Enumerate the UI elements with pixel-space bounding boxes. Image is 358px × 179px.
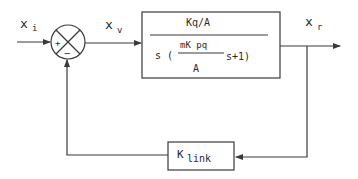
output-signal-main: x (305, 14, 313, 29)
input-signal-sub: i (32, 23, 37, 33)
forward-block-box (142, 12, 280, 78)
feedback-gain-main: K (177, 148, 184, 161)
input-signal-main: x (20, 16, 28, 31)
input-signal-label: x i (20, 16, 37, 33)
error-signal-sub: v (117, 25, 122, 35)
forward-block: Kq/A s ( mK pq A s+1) (142, 12, 280, 78)
error-signal-label: x v (105, 17, 122, 35)
summing-junction: + − (51, 25, 85, 59)
output-signal-label: x r (305, 14, 323, 32)
inner-fraction-denominator: A (193, 63, 199, 74)
error-signal-main: x (105, 17, 113, 32)
output-signal-sub: r (317, 22, 323, 32)
feedback-path-left (67, 60, 168, 155)
plus-sign: + (55, 38, 61, 48)
forward-denominator-prefix: s ( (155, 50, 173, 61)
forward-denominator-suffix: s+1) (226, 51, 250, 62)
minus-sign: − (64, 48, 70, 59)
feedback-gain-sub: link (187, 153, 211, 164)
block-diagram: x i + − x v Kq/A s ( mK pq A s+1) x r (0, 0, 358, 179)
feedback-block: K link (168, 142, 234, 170)
inner-fraction-numerator: mK pq (180, 40, 207, 50)
feedback-path-right (236, 46, 307, 157)
forward-numerator: Kq/A (186, 17, 210, 28)
